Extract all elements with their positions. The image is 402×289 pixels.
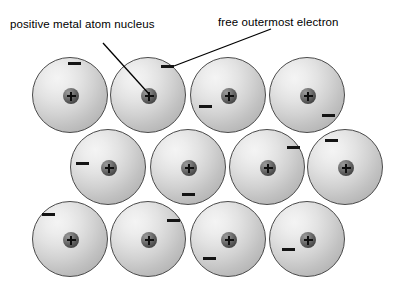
metal-atom-r1c2 bbox=[110, 57, 186, 133]
free-electron-minus-icon bbox=[42, 213, 55, 216]
positive-nucleus-icon bbox=[181, 160, 197, 176]
diagram-canvas: positive metal atom nucleus free outermo… bbox=[0, 0, 402, 289]
plus-charge-icon bbox=[67, 92, 76, 101]
free-electron-minus-icon bbox=[199, 105, 212, 108]
positive-nucleus-icon bbox=[221, 232, 237, 248]
positive-nucleus-icon bbox=[141, 88, 157, 104]
positive-nucleus-icon bbox=[300, 232, 316, 248]
metal-atom-r3c3 bbox=[190, 201, 266, 277]
positive-nucleus-icon bbox=[63, 88, 79, 104]
label-free-outermost-electron: free outermost electron bbox=[218, 16, 339, 29]
label-positive-metal-atom-nucleus: positive metal atom nucleus bbox=[10, 18, 155, 31]
plus-charge-icon bbox=[304, 236, 313, 245]
positive-nucleus-icon bbox=[141, 232, 157, 248]
positive-nucleus-icon bbox=[101, 160, 117, 176]
free-electron-minus-icon bbox=[287, 146, 300, 149]
free-electron-minus-icon bbox=[325, 139, 338, 142]
metal-atom-r3c2 bbox=[110, 201, 186, 277]
positive-nucleus-icon bbox=[260, 160, 276, 176]
positive-nucleus-icon bbox=[300, 88, 316, 104]
free-electron-minus-icon bbox=[322, 114, 335, 117]
metal-atom-r1c3 bbox=[190, 57, 266, 133]
plus-charge-icon bbox=[342, 164, 351, 173]
plus-charge-icon bbox=[145, 92, 154, 101]
atom-lattice bbox=[0, 0, 402, 289]
positive-nucleus-icon bbox=[63, 232, 79, 248]
metal-atom-r2c1 bbox=[70, 129, 146, 205]
positive-nucleus-icon bbox=[338, 160, 354, 176]
plus-charge-icon bbox=[225, 236, 234, 245]
metal-atom-r2c4 bbox=[307, 129, 383, 205]
metal-atom-r1c4 bbox=[269, 57, 345, 133]
free-electron-minus-icon bbox=[68, 62, 81, 65]
plus-charge-icon bbox=[304, 92, 313, 101]
metal-atom-r1c1 bbox=[32, 57, 108, 133]
plus-charge-icon bbox=[185, 164, 194, 173]
plus-charge-icon bbox=[264, 164, 273, 173]
plus-charge-icon bbox=[67, 236, 76, 245]
free-electron-minus-icon bbox=[167, 219, 180, 222]
free-electron-minus-icon bbox=[282, 248, 295, 251]
free-electron-minus-icon bbox=[182, 193, 195, 196]
positive-nucleus-icon bbox=[221, 88, 237, 104]
plus-charge-icon bbox=[225, 92, 234, 101]
free-electron-minus-icon bbox=[161, 65, 174, 68]
plus-charge-icon bbox=[105, 164, 114, 173]
metal-atom-r3c4 bbox=[269, 201, 345, 277]
free-electron-minus-icon bbox=[203, 257, 216, 260]
metal-atom-r2c3 bbox=[229, 129, 305, 205]
plus-charge-icon bbox=[145, 236, 154, 245]
free-electron-minus-icon bbox=[76, 162, 89, 165]
